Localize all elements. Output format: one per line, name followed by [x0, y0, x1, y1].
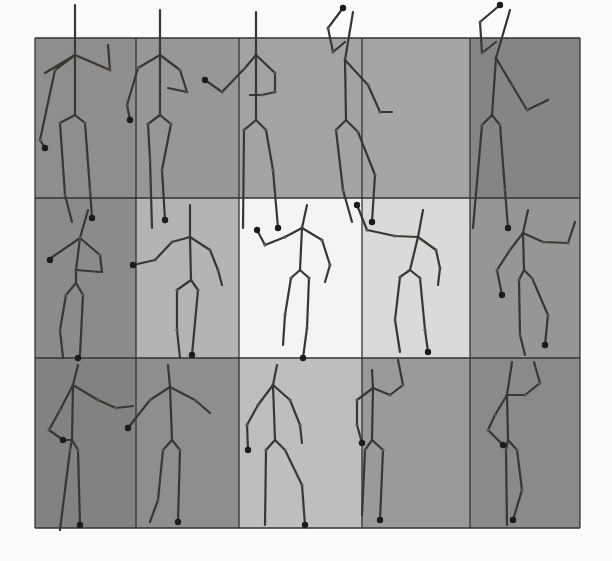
grid-cells [35, 38, 580, 528]
joint-marker [114, 406, 117, 409]
end-effector-dot [60, 437, 66, 443]
end-effector-dot [542, 342, 548, 348]
joint-marker [245, 423, 248, 426]
joint-marker [263, 243, 266, 246]
joint-marker [401, 383, 404, 386]
joint-marker [508, 248, 511, 251]
joint-marker [520, 488, 523, 491]
grid-cell-pose-r3c3 [239, 358, 362, 528]
joint-marker [81, 293, 84, 296]
end-effector-dot [189, 352, 195, 358]
end-effector-dot [500, 442, 506, 448]
joint-marker [517, 278, 520, 281]
joint-marker [525, 108, 528, 111]
joint-marker [58, 121, 61, 124]
joint-marker [438, 266, 441, 269]
end-effector-dot [202, 77, 208, 83]
joint-marker [283, 448, 286, 451]
joint-marker [178, 68, 181, 71]
joint-marker [320, 238, 323, 241]
joint-marker [193, 398, 196, 401]
joint-marker [153, 258, 156, 261]
joint-marker [283, 313, 286, 316]
end-effector-dot [497, 2, 503, 8]
joint-marker [305, 326, 308, 329]
joint-marker [242, 128, 245, 131]
end-effector-dot [425, 349, 431, 355]
joint-marker [136, 66, 139, 69]
end-effector-dot [162, 217, 168, 223]
joint-marker [478, 20, 481, 23]
joint-marker [289, 276, 292, 279]
joint-marker [83, 121, 86, 124]
grid-cell-pose-r1c3 [239, 38, 362, 198]
joint-marker [78, 236, 81, 239]
grid-cell-pose-r2c4 [362, 198, 470, 358]
joint-marker [418, 276, 421, 279]
joint-marker [264, 448, 267, 451]
grid-cell-pose-r3c2 [136, 358, 239, 528]
joint-marker [53, 68, 56, 71]
joint-marker [58, 408, 61, 411]
joint-marker [504, 448, 507, 451]
joint-marker [298, 423, 301, 426]
grid-cell-pose-r1c4 [362, 38, 470, 198]
joint-marker [495, 268, 498, 271]
joint-marker [381, 448, 384, 451]
end-effector-dot [275, 225, 281, 231]
end-effector-dot [42, 145, 48, 151]
end-effector-dot [175, 519, 181, 525]
end-effector-dot [127, 117, 133, 123]
joint-marker [175, 288, 178, 291]
end-effector-dot [369, 219, 375, 225]
joint-marker [423, 328, 426, 331]
joint-marker [175, 328, 178, 331]
grid-cell-pose-r3c1 [35, 358, 136, 528]
joint-marker [68, 448, 71, 451]
joint-marker [196, 288, 199, 291]
joint-marker [434, 248, 437, 251]
joint-marker [273, 71, 276, 74]
joint-marker [160, 168, 163, 171]
grid-cell-pose-r3c4 [362, 358, 470, 528]
joint-marker [373, 173, 376, 176]
joint-marker [331, 50, 334, 53]
joint-marker [355, 423, 358, 426]
joint-marker [63, 193, 66, 196]
joint-marker [98, 253, 101, 256]
end-effector-dot [130, 262, 136, 268]
end-effector-dot [254, 227, 260, 233]
joint-marker [146, 122, 149, 125]
joint-marker [493, 413, 496, 416]
end-effector-dot [75, 355, 81, 361]
joint-marker [38, 138, 41, 141]
joint-marker [486, 428, 489, 431]
grid-cell-pose-r1c5 [470, 38, 580, 198]
joint-marker [541, 240, 544, 243]
joint-marker [161, 448, 164, 451]
joint-marker [366, 83, 369, 86]
joint-marker [365, 228, 368, 231]
grid-cell-pose-r2c3 [239, 198, 362, 358]
joint-marker [88, 188, 91, 191]
joint-marker [264, 128, 267, 131]
joint-marker [273, 90, 276, 93]
end-effector-dot [505, 225, 511, 231]
joint-marker [480, 51, 483, 54]
joint-marker [256, 403, 259, 406]
stick-figure-grid [0, 0, 612, 561]
joint-marker [326, 26, 329, 29]
joint-marker [328, 263, 331, 266]
joint-marker [518, 333, 521, 336]
joint-marker [355, 398, 358, 401]
joint-marker [108, 68, 111, 71]
joint-marker [566, 241, 569, 244]
grid-cell-pose-r3c5 [470, 358, 580, 528]
end-effector-dot [340, 5, 346, 11]
joint-marker [288, 398, 291, 401]
joint-marker [220, 90, 223, 93]
joint-marker [185, 90, 188, 93]
joint-marker [307, 276, 310, 279]
joint-marker [523, 393, 526, 396]
end-effector-dot [77, 522, 83, 528]
